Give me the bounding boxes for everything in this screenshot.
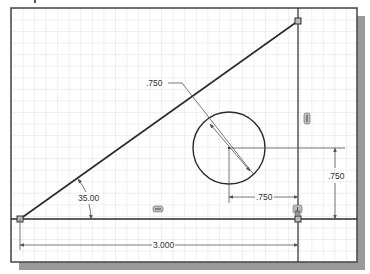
frame-shadow-right	[357, 16, 365, 270]
sketch-grid	[11, 8, 357, 262]
angle-dimension-text[interactable]: 35.00	[78, 193, 100, 203]
horizontal-constraint-icon[interactable]	[153, 206, 163, 212]
diameter-dimension-text[interactable]: .750	[146, 78, 163, 88]
vertical-constraint-icon[interactable]	[304, 113, 310, 124]
endpoint-bottom-right[interactable]	[295, 216, 301, 222]
h-offset-dimension-text[interactable]: .750	[256, 192, 273, 202]
axis-mark	[34, 0, 36, 3]
v-offset-dimension-text[interactable]: .750	[328, 171, 345, 181]
endpoint-top-right[interactable]	[295, 18, 301, 24]
base-dimension-text[interactable]: 3.000	[153, 240, 175, 250]
frame-shadow-bottom	[19, 262, 365, 270]
sketch-canvas[interactable]: .750 .750 .750 3.000 35.00	[0, 0, 370, 274]
